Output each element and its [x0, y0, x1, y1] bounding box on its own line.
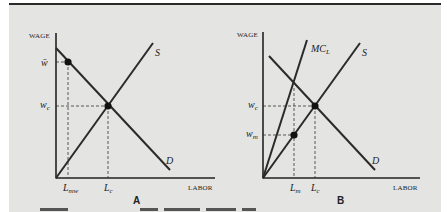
graph-a-supply-label: S	[155, 47, 160, 58]
graph-a-panel-label: A	[133, 195, 140, 206]
graph-a-x-axis-label: LABOR	[188, 184, 213, 192]
graph-b-marginal-cost-curve	[263, 40, 307, 178]
graph-b-x-axis-label: LABOR	[393, 184, 418, 192]
graph-b-demand-curve	[269, 56, 375, 170]
graph-b-wm-label: wm	[246, 128, 258, 141]
graph-a: WAGE LABOR S D w̄ wc Lmw Lc A	[29, 32, 215, 206]
graph-b-supply-curve	[263, 43, 360, 178]
graph-b-wc-label: wc	[248, 99, 259, 112]
graph-a-min-wage-point	[64, 58, 71, 65]
figure-svg: WAGE LABOR S D w̄ wc Lmw Lc A WAGE LABOR	[0, 0, 447, 212]
graph-a-lmw-label: Lmw	[62, 182, 79, 195]
graph-a-demand-curve	[56, 48, 170, 170]
graph-b-demand-label: D	[371, 155, 380, 166]
graph-b-equilibrium-point	[311, 102, 318, 109]
graph-a-equilibrium-point	[104, 102, 111, 109]
graph-b-monopsony-point	[290, 131, 297, 138]
graph-a-demand-label: D	[165, 155, 174, 166]
graph-b-panel-label: B	[337, 195, 344, 206]
graph-a-lc-label: Lc	[103, 182, 114, 195]
graph-b: WAGE LABOR MCL S D wc wm Lm Lc B	[237, 31, 420, 206]
graph-a-y-axis-label: WAGE	[29, 32, 50, 40]
cut-off-caption	[40, 208, 310, 212]
graph-b-y-axis-label: WAGE	[237, 31, 258, 39]
graph-b-lc-label: Lc	[310, 182, 321, 195]
graph-b-lm-label: Lm	[289, 182, 301, 195]
graph-b-supply-label: S	[362, 47, 367, 58]
graph-a-wbar-label: w̄	[41, 57, 48, 68]
graph-b-mc-label: MCL	[310, 43, 330, 56]
graph-a-wc-label: wc	[40, 99, 51, 112]
